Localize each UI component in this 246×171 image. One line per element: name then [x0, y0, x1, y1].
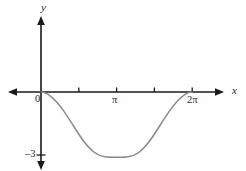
y-axis-label: y	[41, 2, 46, 13]
x-tick-label-2pi: 2π	[187, 95, 198, 106]
y-tick-label-neg3: –3	[25, 149, 36, 160]
x-axis-left-arrowhead	[8, 88, 17, 96]
graph-figure: y x 0 π 2π –3	[0, 0, 246, 171]
coordinate-plane	[0, 0, 246, 171]
origin-label: 0	[35, 94, 40, 105]
y-axis-bottom-arrowhead	[37, 161, 45, 170]
x-axis-label: x	[232, 85, 237, 96]
y-axis-top-arrowhead	[37, 16, 45, 25]
x-axis-right-arrowhead	[215, 88, 224, 96]
x-tick-label-pi: π	[112, 95, 117, 106]
